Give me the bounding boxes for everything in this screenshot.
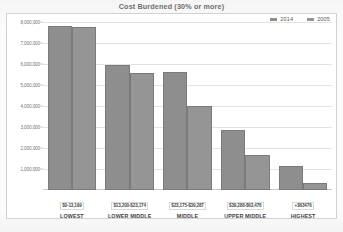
x-category-range: +$63476 (292, 202, 314, 210)
bar-group (159, 22, 217, 190)
bar-2014-lower-middle[interactable] (105, 65, 129, 190)
x-category-range: $39,288-$63,476 (227, 202, 265, 210)
x-category-name: LOWER MIDDLE (101, 213, 159, 219)
x-category-name: LOWEST (43, 213, 101, 219)
bar-2005-lower-middle[interactable] (130, 73, 154, 190)
y-tick-label: 5,000,000 (20, 83, 40, 88)
x-category: $39,288-$63,476UPPER MIDDLE (216, 192, 274, 218)
x-category-range: $0-13,199 (60, 202, 84, 210)
bar-2005-middle[interactable] (187, 106, 211, 190)
x-category-name: MIDDLE (159, 213, 217, 219)
y-tick-label: 2,000,000 (20, 146, 40, 151)
y-tick-label: 1,000,000 (20, 167, 40, 172)
bar-2014-lowest[interactable] (48, 26, 72, 190)
bar-group (274, 22, 332, 190)
y-tick-label: 8,000,000 (20, 20, 40, 25)
x-category: $23,175-$39,287MIDDLE (159, 192, 217, 218)
bar-2005-highest[interactable] (303, 183, 327, 190)
legend-swatch-2014 (270, 18, 277, 21)
bar-2014-highest[interactable] (279, 166, 303, 190)
y-tick-label: 3,000,000 (20, 125, 40, 130)
x-category-name: HIGHEST (274, 213, 332, 219)
bar-2014-upper-middle[interactable] (221, 130, 245, 190)
bar-2014-middle[interactable] (163, 72, 187, 190)
bar-2005-lowest[interactable] (72, 27, 96, 190)
chart-bars (43, 22, 332, 190)
x-category: +$63476HIGHEST (274, 192, 332, 218)
bar-group (216, 22, 274, 190)
x-axis-labels: $0-13,199LOWEST$13,200-$23,174LOWER MIDD… (43, 192, 332, 218)
y-tick-label: 4,000,000 (20, 104, 40, 109)
chart-plot-frame: 2014 2005 8,000,0007,000,0006,000,0005,0… (6, 13, 337, 219)
bar-group (43, 22, 101, 190)
bar-2005-upper-middle[interactable] (245, 155, 269, 190)
chart-title: Cost Burdened (30% or more) (0, 2, 343, 11)
x-category-name: UPPER MIDDLE (216, 213, 274, 219)
y-axis: 8,000,0007,000,0006,000,0005,000,0004,00… (7, 22, 43, 190)
x-category: $0-13,199LOWEST (43, 192, 101, 218)
y-tick-label: 6,000,000 (20, 62, 40, 67)
x-category-range: $23,175-$39,287 (169, 202, 207, 210)
x-category-range: $13,200-$23,174 (111, 202, 149, 210)
y-tick-label: 7,000,000 (20, 41, 40, 46)
legend-swatch-2005 (307, 18, 314, 21)
x-category: $13,200-$23,174LOWER MIDDLE (101, 192, 159, 218)
bar-group (101, 22, 159, 190)
